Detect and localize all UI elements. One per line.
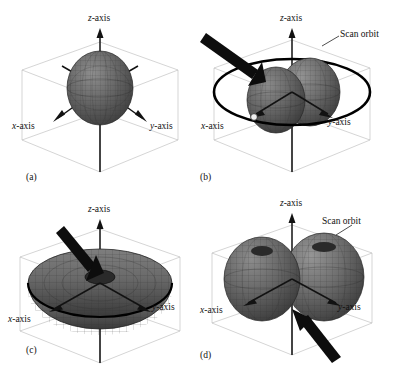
x-axis-suffix-b: -axis [205, 121, 223, 131]
y-axis-suffix-d: -axis [342, 302, 360, 312]
scan-orbit-leader-b [322, 36, 339, 46]
y-axis-label-c: y-axis [152, 303, 175, 313]
panel-b: z-axis x-axis y-axis Scan orbit (b) [200, 0, 400, 191]
y-axis-suffix-b: -axis [332, 117, 350, 127]
radiation-surface-sphere-a [65, 49, 135, 127]
x-axis-suffix-c: -axis [12, 314, 30, 324]
z-axis-suffix-d: -axis [284, 198, 302, 208]
y-axis-suffix-c: -axis [156, 302, 174, 312]
radiation-surface-lobe-d1 [222, 235, 302, 323]
z-axis-label-b: z-axis [280, 14, 302, 24]
y-axis-suffix-a: -axis [154, 121, 172, 131]
x-axis-label-c: x-axis [8, 315, 31, 325]
z-axis-label-c: z-axis [88, 205, 110, 215]
x-axis-label-b: x-axis [201, 122, 224, 132]
panel-c: z-axis x-axis y-axis (c) [0, 191, 200, 382]
x-axis-suffix-d: -axis [204, 305, 222, 315]
z-axis-label-d: z-axis [280, 199, 302, 209]
figure-container: z-axis x-axis y-axis (a) [0, 0, 400, 382]
z-axis-label-a: z-axis [88, 14, 110, 24]
x-axis-label-a: x-axis [12, 122, 35, 132]
panel-caption-d: (d) [200, 351, 211, 361]
scan-orbit-label-b: Scan orbit [340, 30, 379, 40]
panel-d-graphic [200, 191, 400, 382]
x-axis-suffix-a: -axis [16, 121, 34, 131]
panel-caption-c: (c) [26, 346, 37, 356]
panel-a: z-axis x-axis y-axis (a) [0, 0, 200, 191]
y-axis-label-b: y-axis [328, 118, 351, 128]
radiation-surface-torus-c [28, 249, 172, 337]
panel-caption-a: (a) [26, 173, 37, 183]
orbit-marker-b [251, 114, 258, 121]
panel-caption-b: (b) [200, 173, 211, 183]
x-axis-label-d: x-axis [200, 306, 223, 316]
panel-d: z-axis x-axis y-axis Scan orbit (d) [200, 191, 400, 382]
y-axis-label-a: y-axis [150, 122, 173, 132]
scan-orbit-label-d: Scan orbit [322, 217, 361, 227]
panel-a-graphic [0, 0, 200, 191]
z-axis-suffix-c: -axis [92, 204, 110, 214]
y-axis-label-d: y-axis [338, 303, 361, 313]
z-axis-suffix-b: -axis [284, 13, 302, 23]
z-axis-suffix-a: -axis [92, 13, 110, 23]
scan-orbit-leader-d [336, 225, 352, 235]
incident-arrow-b [200, 33, 266, 86]
